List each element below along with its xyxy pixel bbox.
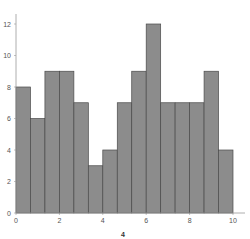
histogram-bar — [30, 119, 44, 214]
y-tick-label: 12 — [3, 21, 11, 28]
y-tick-label: 4 — [7, 147, 11, 154]
histogram-bars — [16, 24, 233, 213]
y-tick-label: 8 — [7, 84, 11, 91]
y-tick-labels: 024681012 — [3, 21, 16, 217]
histogram-bar — [190, 103, 204, 213]
x-tick-label: 10 — [229, 217, 237, 224]
histogram-bar — [88, 166, 102, 213]
histogram-bar — [117, 103, 131, 213]
x-tick-label: 4 — [101, 217, 105, 224]
histogram-bar — [219, 150, 233, 213]
histogram-bar — [132, 71, 146, 213]
histogram-bar — [16, 87, 30, 213]
histogram-chart: 024681012 0246810 4 — [0, 0, 250, 239]
x-tick-labels: 0246810 — [14, 213, 237, 224]
y-tick-label: 6 — [7, 115, 11, 122]
x-tick-label: 2 — [57, 217, 61, 224]
x-axis-label: 4 — [121, 231, 125, 238]
y-tick-label: 0 — [7, 210, 11, 217]
histogram-bar — [59, 71, 73, 213]
y-tick-label: 2 — [7, 178, 11, 185]
histogram-bar — [146, 24, 160, 213]
x-tick-label: 0 — [14, 217, 18, 224]
histogram-bar — [74, 103, 88, 213]
histogram-bar — [103, 150, 117, 213]
x-tick-label: 6 — [144, 217, 148, 224]
histogram-bar — [204, 71, 218, 213]
histogram-bar — [161, 103, 175, 213]
x-tick-label: 8 — [188, 217, 192, 224]
histogram-bar — [45, 71, 59, 213]
y-tick-label: 10 — [3, 52, 11, 59]
histogram-bar — [175, 103, 189, 213]
